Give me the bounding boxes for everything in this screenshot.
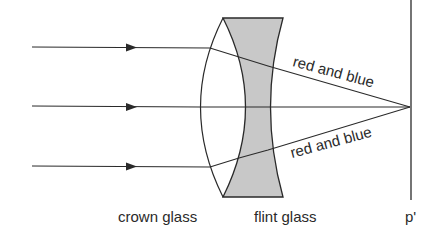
arrow-right-icon xyxy=(126,44,137,52)
incoming-ray-top xyxy=(32,47,210,48)
arrow-right-icon xyxy=(126,103,137,111)
incoming-ray-middle xyxy=(32,106,200,107)
focal-point-label: p' xyxy=(405,208,416,225)
incoming-rays xyxy=(32,47,210,167)
flint-glass-label: flint glass xyxy=(254,208,317,225)
arrow-right-icon xyxy=(126,163,137,171)
ray-arrow-icons xyxy=(126,44,137,171)
crown-glass-label: crown glass xyxy=(118,208,197,225)
refracted-ray-bottom xyxy=(210,107,410,167)
achromatic-doublet-diagram: red and blue red and blue crown glass fl… xyxy=(0,0,438,244)
incoming-ray-bottom xyxy=(32,166,210,167)
ray-label-bottom: red and blue xyxy=(288,123,373,161)
